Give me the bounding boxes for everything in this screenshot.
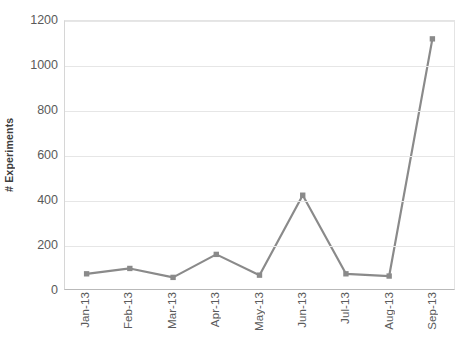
data-point-marker	[300, 193, 305, 198]
data-point-marker	[386, 273, 391, 278]
x-axis-tick-labels: Jan-13Feb-13Mar-13Apr-13May-13Jun-13Jul-…	[64, 292, 455, 354]
line-series	[65, 21, 454, 289]
gridline	[65, 21, 454, 22]
series-line	[87, 39, 433, 278]
data-point-marker	[214, 252, 219, 257]
y-tick-label: 400	[14, 193, 58, 207]
y-tick-label: 200	[14, 238, 58, 252]
y-tick-label: 0	[14, 283, 58, 297]
y-tick-label: 1000	[14, 58, 58, 72]
chart-title	[60, 0, 260, 3]
gridline	[65, 111, 454, 112]
x-tick-label: Feb-13	[122, 292, 134, 329]
x-tick-label: Jul-13	[339, 292, 351, 324]
chart-container: # Experiments 020040060080010001200 Jan-…	[0, 0, 465, 354]
data-point-marker	[343, 271, 348, 276]
data-point-marker	[84, 271, 89, 276]
y-tick-label: 800	[14, 103, 58, 117]
gridline	[65, 201, 454, 202]
gridline	[65, 66, 454, 67]
x-tick-label: Mar-13	[166, 292, 178, 329]
y-tick-label: 600	[14, 148, 58, 162]
x-tick-label: Sep-13	[426, 292, 438, 330]
x-tick-label: May-13	[253, 292, 265, 331]
y-axis-tick-labels: 020040060080010001200	[8, 20, 58, 290]
x-tick-label: Aug-13	[383, 292, 395, 330]
gridline	[65, 156, 454, 157]
data-point-marker	[127, 266, 132, 271]
data-point-marker	[170, 275, 175, 280]
y-tick-label: 1200	[14, 13, 58, 27]
x-tick-label: Apr-13	[209, 292, 221, 327]
x-tick-label: Jun-13	[296, 292, 308, 328]
gridline	[65, 246, 454, 247]
data-point-marker	[430, 36, 435, 41]
x-tick-label: Jan-13	[79, 292, 91, 328]
data-point-marker	[257, 272, 262, 277]
plot-area	[64, 20, 455, 290]
